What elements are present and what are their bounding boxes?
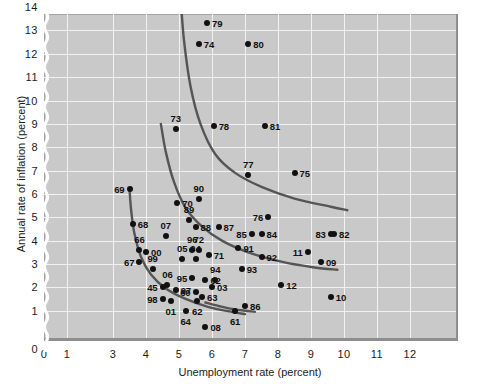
data-point-86 (242, 303, 248, 309)
data-point-label-74: 74 (204, 39, 214, 50)
data-point-label-07: 07 (161, 220, 171, 231)
data-point-63 (199, 294, 205, 300)
data-point-label-12: 12 (286, 279, 296, 290)
x-tick-1: 1 (55, 348, 79, 360)
data-point-73 (173, 126, 179, 132)
data-point-label-73: 73 (171, 113, 181, 124)
data-point-75 (292, 170, 298, 176)
data-point-label-60: 60 (180, 286, 190, 297)
data-point-11 (305, 249, 311, 255)
data-point-81 (262, 123, 268, 129)
y-tick-8: 8 (8, 141, 38, 153)
x-tick-9: 9 (299, 348, 323, 360)
plot-area: 7974807378817775699070688988877607660096… (44, 14, 458, 341)
data-point-label-76: 76 (253, 212, 263, 223)
x-tick-11: 11 (365, 348, 389, 360)
data-point-93 (239, 266, 245, 272)
data-point-label-10: 10 (336, 291, 346, 302)
y-tick-9: 9 (8, 118, 38, 130)
data-point-label-62: 62 (192, 306, 202, 317)
data-point-label-87: 87 (224, 221, 234, 232)
data-point-label-45: 45 (147, 282, 157, 293)
data-point-label-04: 04 (190, 243, 200, 254)
y-tick-10: 10 (8, 95, 38, 107)
x-tick-8: 8 (266, 348, 290, 360)
data-point-label-89: 89 (184, 204, 194, 215)
x-tick-10: 10 (332, 348, 356, 360)
data-point-label-01: 01 (166, 306, 176, 317)
x-tick-6: 6 (200, 348, 224, 360)
data-point-label-95: 95 (177, 272, 187, 283)
data-point-label-85: 85 (236, 228, 246, 239)
data-point-label-88: 88 (201, 221, 211, 232)
data-point-label-05: 05 (177, 243, 187, 254)
data-point-label-78: 78 (219, 121, 229, 132)
data-point-89 (186, 217, 192, 223)
data-point-label-64: 64 (180, 316, 190, 327)
data-point-82 (331, 231, 337, 237)
data-point-label-99: 99 (147, 253, 157, 264)
data-point-label-75: 75 (300, 167, 310, 178)
data-point-label-09: 09 (326, 256, 336, 267)
data-point-label-66: 66 (134, 234, 144, 245)
y-tick-13: 13 (8, 24, 38, 36)
data-point-label-67: 67 (124, 256, 134, 267)
data-point-85 (249, 231, 255, 237)
phillips-curve-scatter-chart: Annual rate of inflation (percent) Unemp… (0, 0, 500, 384)
y-tick-11: 11 (8, 71, 38, 83)
data-point-92 (259, 254, 265, 260)
data-point-87 (216, 224, 222, 230)
data-point-label-61: 61 (230, 316, 240, 327)
data-point-label-69: 69 (114, 184, 124, 195)
data-point-04 (193, 256, 199, 262)
data-point-label-94: 94 (210, 264, 220, 275)
data-point-10 (328, 294, 334, 300)
x-tick-3: 3 (101, 348, 125, 360)
data-point-98 (160, 296, 166, 302)
y-tick-2: 2 (8, 281, 38, 293)
data-point-84 (259, 231, 265, 237)
data-point-71 (206, 252, 212, 258)
y-tick-12: 12 (8, 48, 38, 60)
data-point-label-08: 08 (210, 321, 220, 332)
data-point-88 (193, 224, 199, 230)
data-point-label-81: 81 (270, 121, 280, 132)
y-tick-7: 7 (8, 165, 38, 177)
x-tick-7: 7 (233, 348, 257, 360)
data-point-label-91: 91 (243, 242, 253, 253)
data-point-label-92: 92 (267, 251, 277, 262)
data-point-label-06: 06 (162, 269, 172, 280)
data-point-07 (163, 233, 169, 239)
data-point-label-11: 11 (293, 247, 303, 258)
data-point-69 (127, 186, 133, 192)
data-point-label-83: 83 (315, 228, 325, 239)
data-point-99 (150, 266, 156, 272)
y-tick-3: 3 (8, 258, 38, 270)
data-point-label-77: 77 (243, 159, 253, 170)
data-point-60 (193, 289, 199, 295)
data-point-90 (196, 196, 202, 202)
data-point-78 (211, 123, 217, 129)
data-point-label-03: 03 (217, 282, 227, 293)
x-tick-12: 12 (398, 348, 422, 360)
data-point-label-71: 71 (214, 249, 224, 260)
data-point-label-79: 79 (212, 18, 222, 29)
data-point-64 (183, 308, 189, 314)
data-point-label-93: 93 (247, 263, 257, 274)
data-point-label-80: 80 (253, 39, 263, 50)
phillips-curves (44, 14, 458, 341)
x-tick-5: 5 (167, 348, 191, 360)
data-point-label-82: 82 (339, 228, 349, 239)
data-point-09 (318, 259, 324, 265)
data-point-label-98: 98 (147, 293, 157, 304)
data-point-97 (173, 287, 179, 293)
axis-break-icon (40, 12, 52, 352)
data-point-label-68: 68 (138, 219, 148, 230)
data-point-61 (232, 308, 238, 314)
y-tick-1: 1 (8, 305, 38, 317)
y-tick-4: 4 (8, 235, 38, 247)
y-tick-6: 6 (8, 188, 38, 200)
data-point-label-86: 86 (250, 300, 260, 311)
y-tick-5: 5 (8, 211, 38, 223)
x-tick-4: 4 (134, 348, 158, 360)
